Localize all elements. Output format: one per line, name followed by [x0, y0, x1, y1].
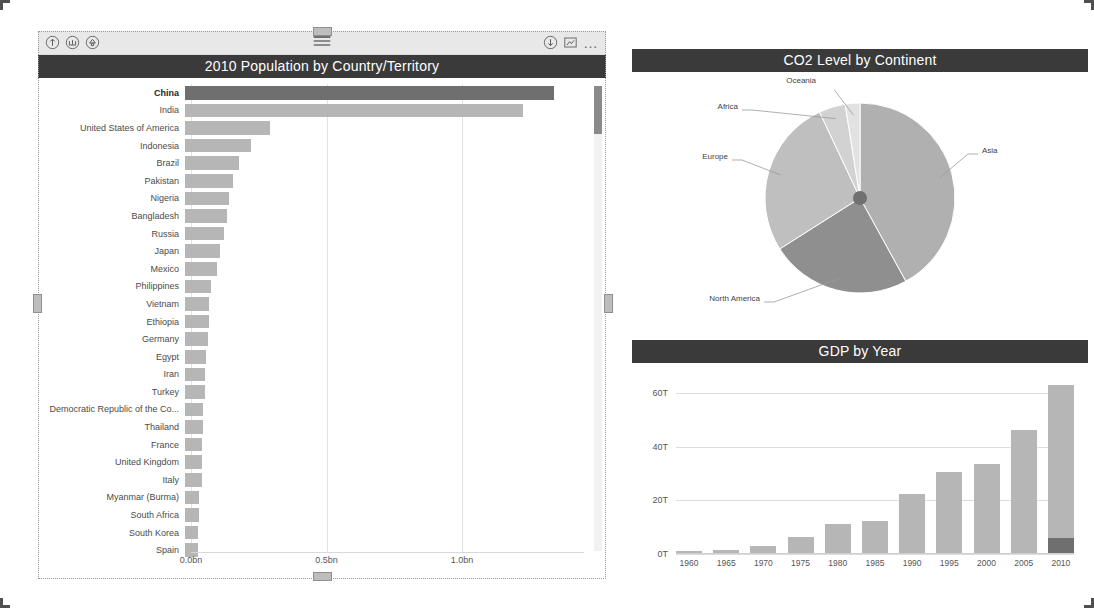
bar-row[interactable]: Ethiopia — [38, 313, 584, 331]
drill-down-toggle-icon[interactable] — [85, 35, 100, 50]
gdp-bar[interactable] — [1011, 430, 1037, 554]
gdp-bar[interactable] — [936, 472, 962, 554]
bar-value[interactable] — [185, 332, 208, 346]
more-options-icon[interactable]: … — [583, 38, 599, 48]
bar-value[interactable] — [185, 262, 217, 276]
gdp-x-tick-label: 1960 — [676, 558, 702, 574]
resize-handle-right-middle[interactable] — [604, 294, 613, 313]
bar-value[interactable] — [185, 156, 239, 170]
gdp-bar[interactable] — [788, 537, 814, 554]
bar-value[interactable] — [185, 473, 202, 487]
gdp-bar[interactable] — [862, 521, 888, 554]
bar-category-label: Indonesia — [38, 141, 185, 151]
bar-row[interactable]: United Kingdom — [38, 453, 584, 471]
gdp-bar[interactable] — [825, 524, 851, 554]
bar-value[interactable] — [185, 350, 206, 364]
co2-visual-container[interactable]: CO2 Level by Continent AsiaNorth America… — [632, 49, 1088, 317]
bar-row[interactable]: Mexico — [38, 260, 584, 278]
gdp-bar[interactable] — [1048, 385, 1074, 554]
bar-row[interactable]: South Korea — [38, 524, 584, 542]
bar-value[interactable] — [185, 297, 209, 311]
bar-row[interactable]: India — [38, 102, 584, 120]
resize-handle-bottom-right[interactable] — [0, 30, 10, 40]
bar-row[interactable]: Democratic Republic of the Co... — [38, 401, 584, 419]
bar-value[interactable] — [185, 121, 270, 135]
bar-row[interactable]: Brazil — [38, 154, 584, 172]
gdp-bar-segment-total[interactable] — [899, 494, 925, 554]
bar-row[interactable]: Vietnam — [38, 295, 584, 313]
gdp-visual-container[interactable]: GDP by Year 0T20T40T60T 1960196519701975… — [632, 340, 1088, 580]
expand-hierarchy-icon[interactable] — [65, 35, 80, 50]
bar-value[interactable] — [185, 227, 224, 241]
bar-value[interactable] — [185, 244, 220, 258]
bar-row[interactable]: Germany — [38, 330, 584, 348]
population-chart-plot[interactable]: ChinaIndiaUnited States of AmericaIndone… — [38, 78, 606, 579]
bar-value[interactable] — [185, 315, 209, 329]
bar-value[interactable] — [185, 491, 199, 505]
bar-row[interactable]: Pakistan — [38, 172, 584, 190]
population-chart-scrollbar[interactable] — [594, 86, 602, 551]
resize-handle-top-left[interactable] — [0, 0, 10, 10]
gdp-chart-plot[interactable]: 0T20T40T60T 1960196519701975198019851990… — [632, 363, 1088, 580]
population-visual-container[interactable]: … 2010 Population by Country/Territory C… — [38, 31, 606, 579]
bar-value[interactable] — [185, 209, 227, 223]
bar-value[interactable] — [185, 403, 203, 417]
bar-row[interactable]: South Africa — [38, 506, 584, 524]
bar-value[interactable] — [185, 104, 523, 118]
focus-mode-icon[interactable] — [563, 35, 578, 50]
gdp-bar-segment-highlight[interactable] — [1048, 538, 1074, 554]
bar-row[interactable]: France — [38, 436, 584, 454]
gdp-bar-group[interactable] — [676, 377, 1074, 554]
bar-row[interactable]: Philippines — [38, 278, 584, 296]
bar-value[interactable] — [185, 526, 198, 540]
gdp-bar-segment-total[interactable] — [1048, 385, 1074, 538]
bar-row[interactable]: Nigeria — [38, 190, 584, 208]
bar-row[interactable]: Turkey — [38, 383, 584, 401]
bar-row[interactable]: Egypt — [38, 348, 584, 366]
gdp-bar-segment-total[interactable] — [825, 524, 851, 554]
resize-handle-top-middle[interactable] — [313, 27, 332, 36]
bar-category-label: Mexico — [38, 264, 185, 274]
resize-handle-left-middle[interactable] — [33, 294, 42, 313]
population-bar-rows[interactable]: ChinaIndiaUnited States of AmericaIndone… — [38, 84, 584, 553]
bar-value[interactable] — [185, 385, 205, 399]
bar-value[interactable] — [185, 508, 199, 522]
drill-up-icon[interactable] — [45, 35, 60, 50]
bar-value[interactable] — [185, 174, 233, 188]
bar-row[interactable]: Thailand — [38, 418, 584, 436]
bar-row[interactable]: China — [38, 84, 584, 102]
bar-value[interactable] — [185, 280, 211, 294]
pie-svg[interactable] — [710, 90, 1010, 305]
bar-value[interactable] — [185, 368, 205, 382]
gdp-bar-segment-total[interactable] — [788, 537, 814, 554]
bar-row[interactable]: Italy — [38, 471, 584, 489]
bar-row[interactable]: Japan — [38, 242, 584, 260]
gdp-bar[interactable] — [974, 464, 1000, 554]
bar-value[interactable] — [185, 139, 251, 153]
gdp-plot-area[interactable] — [676, 377, 1074, 554]
pie-chart[interactable] — [710, 90, 1010, 309]
bar-row[interactable]: Russia — [38, 225, 584, 243]
resize-handle-bottom-middle[interactable] — [313, 572, 332, 581]
bar-row[interactable]: Iran — [38, 366, 584, 384]
gdp-bar-segment-total[interactable] — [936, 472, 962, 554]
scrollbar-thumb[interactable] — [594, 86, 602, 134]
bar-value[interactable] — [185, 438, 202, 452]
bar-value[interactable] — [185, 420, 203, 434]
resize-handle-bottom-left[interactable] — [0, 20, 10, 30]
bar-track — [185, 295, 584, 313]
gdp-bar-segment-total[interactable] — [974, 464, 1000, 554]
bar-value[interactable] — [185, 455, 202, 469]
bar-value[interactable] — [185, 86, 554, 100]
bar-row[interactable]: Bangladesh — [38, 207, 584, 225]
bar-value[interactable] — [185, 192, 229, 206]
gdp-bar-segment-total[interactable] — [1011, 430, 1037, 554]
gdp-bar-segment-total[interactable] — [862, 521, 888, 554]
bar-row[interactable]: Indonesia — [38, 137, 584, 155]
bar-row[interactable]: United States of America — [38, 119, 584, 137]
gdp-bar[interactable] — [899, 494, 925, 554]
resize-handle-top-right[interactable] — [0, 10, 10, 20]
co2-chart-plot[interactable]: AsiaNorth AmericaEuropeAfricaOceania — [632, 72, 1088, 317]
filter-download-icon[interactable] — [543, 35, 558, 50]
bar-row[interactable]: Myanmar (Burma) — [38, 489, 584, 507]
